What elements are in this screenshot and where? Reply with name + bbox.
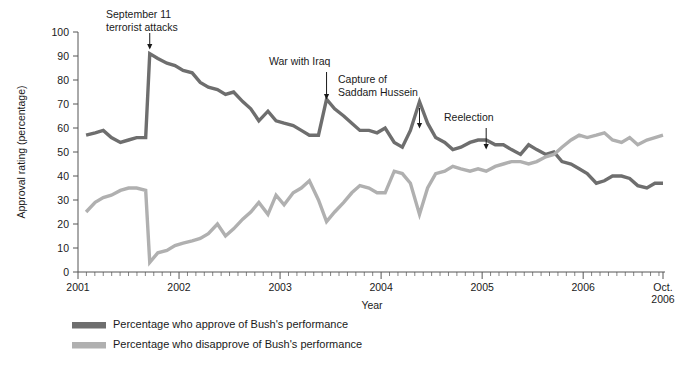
x-tick-label: 2003 <box>268 281 292 293</box>
y-tick-label: 20 <box>57 218 69 230</box>
annotation-label: Reelection <box>444 111 494 123</box>
annotation-arrow-head <box>417 123 422 129</box>
series-line-disapprove <box>86 133 663 263</box>
x-tick-label: 2005 <box>470 281 494 293</box>
x-tick-label: 2001 <box>66 281 90 293</box>
y-tick-label: 40 <box>57 170 69 182</box>
y-tick-label: 30 <box>57 194 69 206</box>
annotation-september-11: September 11terrorist attacks <box>106 8 178 50</box>
x-tick-label: 2006 <box>651 293 675 305</box>
chart-canvas: 0102030405060708090100 20012002200320042… <box>0 0 694 366</box>
legend-label-approve: Percentage who approve of Bush's perform… <box>113 318 348 330</box>
annotation-arrow-head <box>484 144 489 150</box>
y-tick-label: 0 <box>63 266 69 278</box>
legend-label-disapprove: Percentage who disapprove of Bush's perf… <box>113 338 362 350</box>
y-tick-label: 60 <box>57 122 69 134</box>
annotation-label: Capture of <box>338 73 387 85</box>
x-tick-label: 2006 <box>572 281 596 293</box>
chart-legend: Percentage who approve of Bush's perform… <box>72 318 362 350</box>
legend-swatch-approve <box>72 322 106 329</box>
y-axis-title: Approval rating (percentage) <box>15 85 27 218</box>
y-tick-label: 50 <box>57 146 69 158</box>
y-tick-label: 100 <box>51 26 69 38</box>
y-tick-label: 10 <box>57 242 69 254</box>
approval-rating-chart: 0102030405060708090100 20012002200320042… <box>0 0 694 366</box>
x-axis-title: Year <box>361 299 383 311</box>
legend-swatch-disapprove <box>72 342 106 349</box>
y-tick-label: 90 <box>57 50 69 62</box>
x-tick-label: 2002 <box>167 281 191 293</box>
annotation-label: terrorist attacks <box>106 21 178 33</box>
annotation-arrow-head <box>324 94 329 100</box>
y-tick-label: 80 <box>57 74 69 86</box>
axis-lines <box>78 32 665 272</box>
x-tick-label: 2004 <box>369 281 393 293</box>
annotation-arrow-head <box>147 44 152 50</box>
annotation-label: September 11 <box>106 8 171 20</box>
x-tick-label: Oct. <box>653 281 672 293</box>
annotation-war-with-iraq: War with Iraq <box>269 55 331 100</box>
annotation-label: War with Iraq <box>269 55 331 67</box>
y-tick-label: 70 <box>57 98 69 110</box>
y-axis-ticks: 0102030405060708090100 <box>51 26 78 278</box>
annotation-label: Saddam Hussein <box>338 86 418 98</box>
